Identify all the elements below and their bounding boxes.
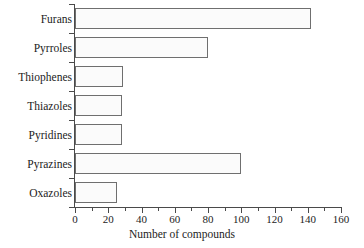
category-label-pyrazines: Pyrazines <box>2 158 72 170</box>
y-axis-tick <box>69 33 74 34</box>
y-axis-tick <box>69 178 74 179</box>
x-axis-minor-tick <box>191 208 192 211</box>
bar-thiophenes <box>75 66 123 87</box>
y-axis-tick <box>69 62 74 63</box>
y-axis-tick <box>69 149 74 150</box>
x-axis-minor-tick <box>158 208 159 211</box>
bar-pyrroles <box>75 37 208 58</box>
y-axis-tick <box>69 4 74 5</box>
x-axis-tick-label: 160 <box>321 213 361 226</box>
category-label-thiophenes: Thiophenes <box>2 71 72 83</box>
category-label-thiazoles: Thiazoles <box>2 100 72 112</box>
category-label-pyrroles: Pyrroles <box>2 42 72 54</box>
y-axis-tick <box>69 91 74 92</box>
x-axis-minor-tick <box>92 208 93 211</box>
category-label-furans: Furans <box>2 13 72 25</box>
bar-furans <box>75 8 311 29</box>
y-axis-tick <box>69 120 74 121</box>
bar-pyrazines <box>75 153 241 174</box>
category-label-oxazoles: Oxazoles <box>2 187 72 199</box>
category-label-pyridines: Pyridines <box>2 129 72 141</box>
plot-area <box>75 4 341 207</box>
bar-pyridines <box>75 124 122 145</box>
bar-thiazoles <box>75 95 122 116</box>
x-axis-minor-tick <box>125 208 126 211</box>
bar-oxazoles <box>75 182 117 203</box>
y-axis-tick <box>69 207 74 208</box>
x-axis-minor-tick <box>225 208 226 211</box>
x-axis-minor-tick <box>291 208 292 211</box>
x-axis-minor-tick <box>324 208 325 211</box>
bar-chart: Number of compounds FuransPyrrolesThioph… <box>0 0 364 248</box>
x-axis-minor-tick <box>258 208 259 211</box>
x-axis-title: Number of compounds <box>0 228 364 240</box>
